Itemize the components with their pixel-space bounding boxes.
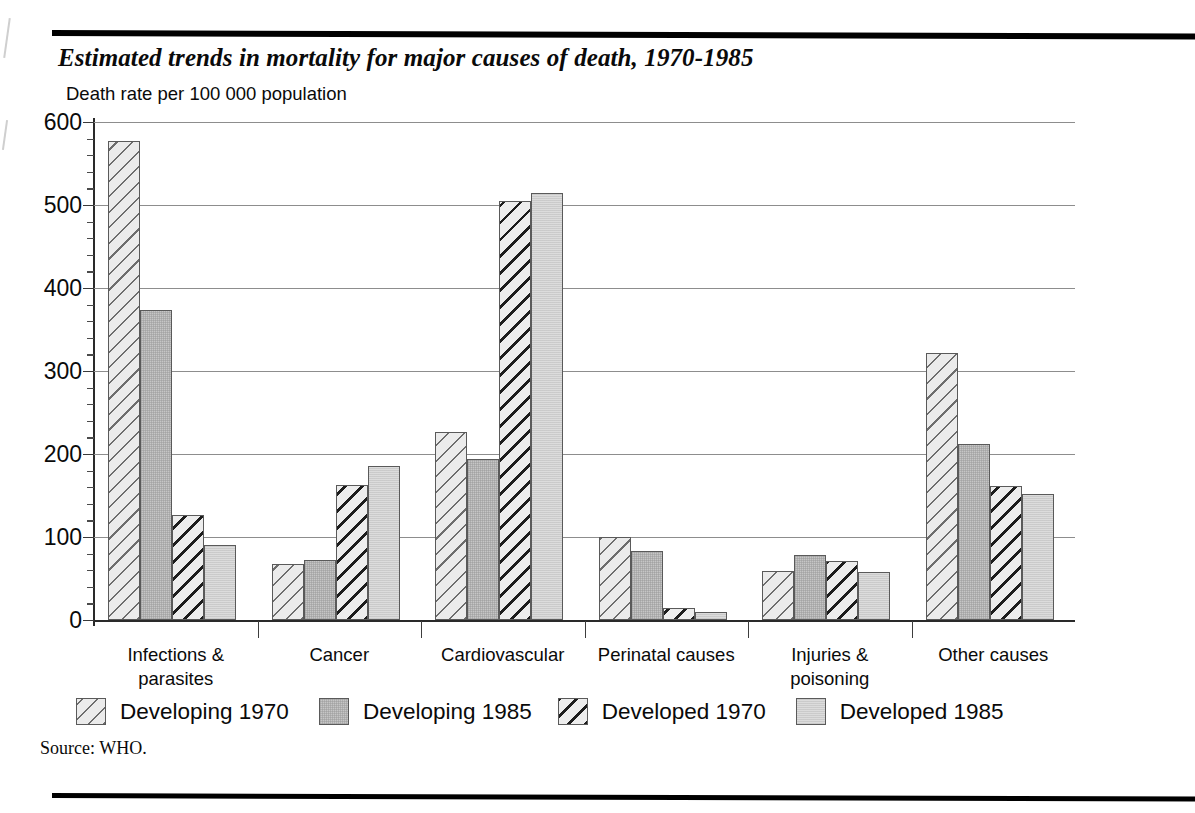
bar: [172, 515, 204, 620]
legend-swatch: [558, 698, 588, 725]
y-tick-minor: [87, 421, 94, 422]
bar: [140, 310, 172, 620]
legend-item[interactable]: Developed 1985: [796, 698, 1004, 725]
source-note: Source: WHO.: [40, 738, 147, 759]
y-tick-minor: [87, 487, 94, 488]
x-category-label: Cancer: [258, 643, 422, 667]
y-tick-label: 400: [44, 275, 82, 302]
y-tick-label: 300: [44, 358, 82, 385]
y-tick-minor: [87, 554, 94, 555]
plot-area: [94, 122, 1075, 620]
y-tick-label: 600: [44, 109, 82, 136]
legend-label: Developed 1970: [602, 699, 766, 725]
bar: [990, 486, 1022, 620]
y-tick-major: [83, 620, 94, 621]
bottom-rule: [52, 793, 1195, 802]
y-tick-minor: [87, 471, 94, 472]
y-tick-minor: [87, 222, 94, 223]
legend-label: Developing 1970: [120, 699, 289, 725]
bar: [531, 193, 563, 620]
y-axis-title: Death rate per 100 000 population: [66, 83, 347, 105]
y-tick-minor: [87, 338, 94, 339]
top-rule: [52, 30, 1195, 40]
y-tick-label: 0: [69, 607, 82, 634]
y-tick-minor: [87, 603, 94, 604]
y-axis-tick-labels: 0100200300400500600: [10, 122, 82, 620]
y-tick-minor: [87, 504, 94, 505]
bar-group: [94, 122, 258, 620]
page-edge-mark: [2, 120, 8, 150]
bar: [467, 459, 499, 620]
bar: [368, 466, 400, 620]
x-category-label: Infections & parasites: [94, 643, 258, 691]
y-tick-minor: [87, 520, 94, 521]
group-separator: [258, 621, 259, 638]
bar-group: [421, 122, 585, 620]
page-edge-mark: [3, 18, 11, 58]
y-tick-minor: [87, 188, 94, 189]
bar: [435, 432, 467, 620]
legend-swatch: [319, 698, 349, 725]
y-tick-label: 200: [44, 441, 82, 468]
bar: [958, 444, 990, 620]
y-tick-major: [83, 205, 94, 206]
bar-group: [748, 122, 912, 620]
bar: [794, 555, 826, 620]
y-tick-major: [83, 371, 94, 372]
bar: [204, 545, 236, 620]
y-tick-major: [83, 288, 94, 289]
y-tick-minor: [87, 238, 94, 239]
bar: [599, 537, 631, 620]
bar-group: [258, 122, 422, 620]
legend-swatch: [76, 698, 106, 725]
y-tick-label: 500: [44, 192, 82, 219]
y-tick-minor: [87, 570, 94, 571]
y-tick-minor: [87, 404, 94, 405]
bar: [336, 485, 368, 620]
bar: [926, 353, 958, 620]
legend-label: Developing 1985: [363, 699, 532, 725]
y-tick-major: [83, 454, 94, 455]
y-tick-minor: [87, 139, 94, 140]
chart-title: Estimated trends in mortality for major …: [58, 44, 754, 72]
legend: Developing 1970Developing 1985Developed …: [76, 698, 1004, 725]
y-tick-minor: [87, 354, 94, 355]
bar: [858, 572, 890, 620]
y-tick-minor: [87, 388, 94, 389]
y-tick-minor: [87, 172, 94, 173]
legend-swatch: [796, 698, 826, 725]
bar: [108, 141, 140, 620]
legend-item[interactable]: Developing 1985: [319, 698, 532, 725]
legend-item[interactable]: Developed 1970: [558, 698, 766, 725]
y-tick-major: [83, 537, 94, 538]
bar: [499, 201, 531, 620]
y-tick-minor: [87, 271, 94, 272]
bar: [663, 608, 695, 620]
legend-item[interactable]: Developing 1970: [76, 698, 289, 725]
bar-group: [912, 122, 1076, 620]
group-separator: [912, 621, 913, 638]
x-category-label: Other causes: [912, 643, 1076, 667]
bar-group: [585, 122, 749, 620]
y-tick-major: [83, 122, 94, 123]
bar: [1022, 494, 1054, 620]
group-separator: [585, 621, 586, 638]
bar: [272, 564, 304, 620]
y-tick-minor: [87, 437, 94, 438]
x-category-label: Perinatal causes: [585, 643, 749, 667]
figure-container: Estimated trends in mortality for major …: [0, 0, 1195, 813]
y-tick-minor: [87, 255, 94, 256]
y-tick-label: 100: [44, 524, 82, 551]
x-category-label: Cardiovascular: [421, 643, 585, 667]
bar: [695, 612, 727, 620]
bar: [826, 561, 858, 620]
legend-label: Developed 1985: [840, 699, 1004, 725]
bar: [762, 571, 794, 620]
y-tick-minor: [87, 155, 94, 156]
y-tick-minor: [87, 321, 94, 322]
bar: [631, 551, 663, 620]
y-tick-minor: [87, 305, 94, 306]
x-category-label: Injuries & poisoning: [748, 643, 912, 691]
group-separator: [421, 621, 422, 638]
group-separator: [748, 621, 749, 638]
